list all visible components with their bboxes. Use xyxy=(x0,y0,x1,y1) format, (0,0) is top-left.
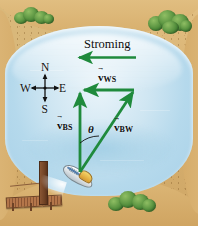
vector-subscript-vws: WS xyxy=(104,75,117,84)
vector-label-vbw: vBW xyxy=(114,122,133,134)
vector-symbol-vbs: v xyxy=(57,120,63,131)
vector-subscript-vbw: BW xyxy=(120,125,134,134)
compass-east-label: E xyxy=(59,83,66,95)
vector-symbol-vbw: v xyxy=(114,122,120,133)
vector-label-vws: vWS xyxy=(98,72,116,84)
compass-rose: N S W E xyxy=(20,62,70,114)
vector-subscript-vbs: BS xyxy=(63,123,73,132)
compass-north-label: N xyxy=(41,62,49,74)
vector-label-vbs: vBS xyxy=(57,120,73,132)
current-label: Stroming xyxy=(84,38,131,51)
figure-canvas: Stroming vWS vBS vBW θ N S W E xyxy=(0,0,198,226)
vector-symbol-vws: v xyxy=(98,72,104,83)
compass-west-label: W xyxy=(20,83,31,95)
angle-arc xyxy=(80,136,99,143)
compass-south-label: S xyxy=(42,104,48,116)
angle-label-theta: θ xyxy=(88,124,94,135)
